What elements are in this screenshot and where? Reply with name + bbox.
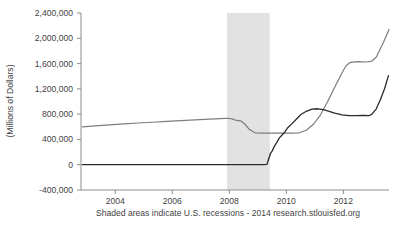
y-tick-label: 1,600,000 [35,59,73,69]
x-axis-ticks [115,190,343,194]
y-tick-label: 400,000 [42,134,73,144]
y-axis-label: (Millions of Dollars) [5,64,15,137]
x-tick-label: 2006 [163,196,182,206]
x-tick-label: 2012 [334,196,353,206]
recession-shaded-band-group [227,13,270,190]
y-tick-label: 800,000 [42,109,73,119]
y-tick-label: -400,000 [39,185,73,195]
y-tick-label: 0 [68,160,73,170]
recession-shaded-band [227,13,270,190]
x-tick-label: 2008 [220,196,239,206]
x-axis-tick-labels: 20042006200820102012 [106,196,353,206]
x-tick-label: 2010 [277,196,296,206]
x-tick-label: 2004 [106,196,125,206]
y-axis-tick-labels: 2,400,0002,000,0001,600,0001,200,000800,… [35,8,73,195]
y-axis-ticks [77,13,81,190]
fred-line-chart: 2,400,0002,000,0001,600,0001,200,000800,… [0,0,396,233]
y-tick-label: 2,000,000 [35,33,73,43]
chart-caption: Shaded areas indicate U.S. recessions - … [96,208,360,218]
chart-container: 2,400,0002,000,0001,600,0001,200,000800,… [0,0,396,233]
y-tick-label: 1,200,000 [35,84,73,94]
y-tick-label: 2,400,000 [35,8,73,18]
